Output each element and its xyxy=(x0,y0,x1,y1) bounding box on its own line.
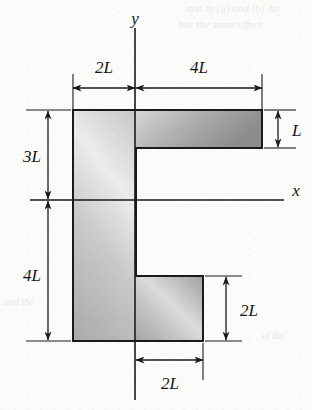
dimension-right-L: L xyxy=(264,110,301,148)
y-axis-label: y xyxy=(129,9,139,28)
dim-label-2L-top: 2L xyxy=(95,58,113,77)
bleed-text-3: and the xyxy=(4,296,34,307)
dim-label-2L-width: 2L xyxy=(161,374,179,393)
dimension-top: 2L 4L xyxy=(73,58,262,112)
bleed-text-4: of the xyxy=(262,330,285,341)
dim-label-4L-top: 4L xyxy=(190,58,208,77)
dimension-bottom-block-width: 2L xyxy=(136,343,203,393)
dim-label-2L-height: 2L xyxy=(240,301,258,320)
axes xyxy=(30,28,284,400)
x-axis-label: x xyxy=(291,181,300,200)
dim-label-4L-left: 4L xyxy=(23,266,41,285)
section-fill-top-flange xyxy=(136,110,262,148)
cross-section-drawing: 2L 4L L 3L 4L 2L xyxy=(0,0,312,410)
dimension-bottom-block-height: 2L xyxy=(205,276,258,341)
section-body xyxy=(73,110,262,341)
dim-label-3L: 3L xyxy=(22,147,41,166)
dim-label-L: L xyxy=(291,121,301,140)
section-fill-bottom-flange xyxy=(136,276,203,341)
bleed-text-2: has the same effect xyxy=(178,18,261,30)
bleed-text-1: and in (a) and (b) An xyxy=(186,2,279,14)
figure-canvas: and in (a) and (b) An has the same effec… xyxy=(0,0,312,410)
